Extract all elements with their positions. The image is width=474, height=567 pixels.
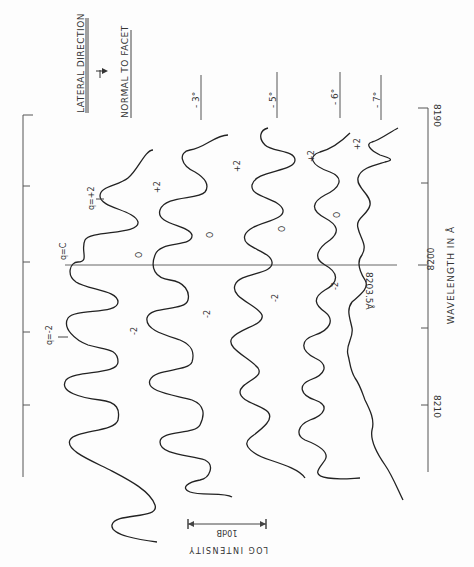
wavelength-tick-labels: 8190 8200 8210 WAVELENGTH IN Å — [426, 104, 456, 418]
arrow-left-icon — [188, 521, 194, 527]
tick-8190: 8190 — [432, 104, 442, 127]
mode-label-q-minus2: q=-2 — [45, 325, 54, 345]
mode-label-q-plus2: q=+2 — [87, 186, 96, 210]
mode-label-c3-plus2: +2 — [233, 160, 242, 172]
mode-labels-curve-5: -2 O +2 — [331, 138, 362, 290]
angle-label-3: - 3° — [191, 92, 201, 108]
tick-8210: 8210 — [432, 395, 442, 418]
x-axis-label: WAVELENGTH IN Å — [445, 226, 456, 324]
angle-label-6: - 6° — [330, 89, 340, 105]
mode-label-c4-minus2: -2 — [271, 294, 280, 302]
mode-label-c3-0: O — [206, 232, 215, 238]
mode-label-c5-plus2: +2 — [353, 138, 362, 150]
mode-labels-curve-3: -2 O +2 — [203, 160, 242, 318]
scale-bar-label: 10dB — [217, 528, 238, 537]
angle-labels: - 3° - 5° - 6° - 7° — [191, 72, 382, 120]
mode-labels-curve-1: q=-2 q=C q=+2 — [45, 186, 104, 345]
mode-label-q0: q=C — [59, 242, 68, 260]
mode-label-c5-minus2: -2 — [331, 282, 340, 290]
normal-to-facet-label: NORMAL TO FACET — [120, 25, 130, 118]
mode-labels-curve-4: -2 O +2 — [271, 150, 316, 302]
mode-label-c4-plus2: +2 — [307, 150, 316, 162]
lateral-direction-label: LATERAL DIRECTION — [76, 13, 86, 113]
spectrum-curve-4 — [299, 133, 360, 479]
chart-svg: 8190 8200 8210 WAVELENGTH IN Å 8203.5Å L… — [0, 0, 474, 567]
spectra-figure: 8190 8200 8210 WAVELENGTH IN Å 8203.5Å L… — [0, 0, 474, 567]
y-axis-label: LOG INTENSITY — [188, 545, 268, 554]
arrow-right-icon — [260, 521, 266, 527]
mode-label-c2-0: O — [135, 252, 144, 258]
spectrum-curve-3 — [231, 128, 305, 478]
arrow-icon — [102, 68, 108, 74]
spectrum-curve-5 — [347, 128, 403, 500]
reference-line-label: 8203.5Å — [364, 272, 375, 310]
legend: LATERAL DIRECTION NORMAL TO FACET — [76, 13, 131, 118]
mode-label-c3-minus2: -2 — [203, 310, 212, 318]
wavelength-axis — [418, 108, 428, 472]
tick-8200: 8200 — [426, 247, 436, 270]
mode-label-c5-0: O — [333, 212, 342, 218]
spectrum-curve-1 — [64, 150, 157, 542]
mode-label-c4-0: O — [278, 226, 287, 232]
mode-labels-curve-2: -2 O +2 — [130, 181, 162, 335]
left-axis — [23, 115, 33, 477]
mode-label-c2-minus2: -2 — [130, 327, 139, 335]
scale-bar: 10dB — [188, 519, 266, 537]
mode-label-c2-plus2: +2 — [153, 181, 162, 193]
